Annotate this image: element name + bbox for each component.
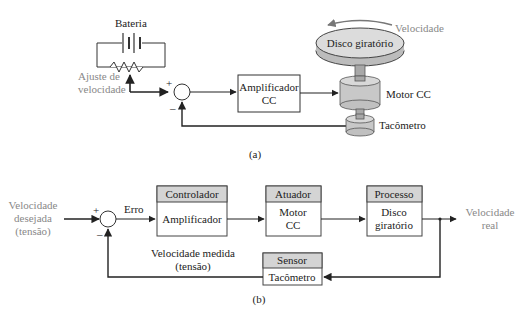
sum-minus-a: – [169,102,176,114]
controller-block: Controlador Amplificador [157,186,227,236]
process-header: Processo [374,188,414,200]
input-label-2: desejada [14,212,52,224]
sum-plus-a: + [166,77,172,89]
amplifier-label-1: Amplificador [239,81,299,93]
battery-label: Bateria [115,17,147,29]
motor-icon [340,76,380,110]
input-label-3: (tensão) [15,225,51,238]
controller-body: Amplificador [162,213,222,225]
process-body-1: Disco [381,206,407,218]
control-diagram: Bateria Ajuste de velocidade + – Amplifi… [0,0,522,315]
motor-label: Motor CC [386,88,431,100]
sum-plus-b: + [93,204,99,216]
amplifier-label-2: CC [262,94,277,106]
sum-minus-b: – [96,228,103,240]
sensor-header: Sensor [277,254,307,266]
pot-label-line1: Ajuste de [78,70,120,82]
battery-icon [97,33,165,67]
diagram-b: Velocidade desejada (tensão) + – Erro Co… [9,186,515,306]
actuator-body-2: CC [286,219,301,231]
caption-a: (a) [249,148,262,161]
sensor-block: Sensor Tacômetro [263,253,322,285]
output-label-1: Velocidade [466,206,515,218]
pot-label-line2: velocidade [78,83,126,95]
diagram-a: Bateria Ajuste de velocidade + – Amplifi… [78,17,444,161]
tachometer-icon [346,114,374,136]
actuator-block: Atuador Motor CC [266,186,321,236]
caption-b: (b) [253,293,266,306]
disk-label: Disco giratório [327,37,394,49]
rotation-arrow-icon [328,21,392,26]
tacho-label: Tacômetro [379,119,426,131]
output-label-2: real [482,219,498,231]
controller-header: Controlador [165,188,218,200]
actuator-header: Atuador [275,188,311,200]
sensor-body: Tacômetro [269,271,316,283]
error-label: Erro [124,203,144,215]
process-block: Processo Disco giratório [367,186,422,236]
feedback-label-1: Velocidade medida [151,247,235,259]
actuator-body-1: Motor [279,206,307,218]
summing-junction-b [100,211,116,227]
feedback-label-2: (tensão) [175,260,211,273]
summing-junction-a [174,84,190,100]
input-label-1: Velocidade [9,199,58,211]
process-body-2: giratório [375,219,413,231]
speed-label: Velocidade [395,22,444,34]
